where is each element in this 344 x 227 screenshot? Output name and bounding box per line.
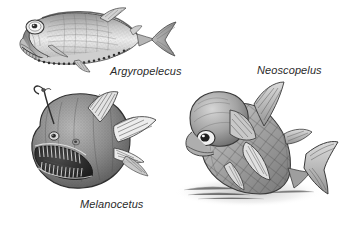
illustration-plate: Argyropelecus Neoscopelus Melanocetus bbox=[0, 0, 344, 227]
figure-neoscopelus bbox=[168, 76, 340, 212]
figure-argyropelecus bbox=[8, 6, 178, 74]
figure-label-melanocetus: Melanocetus bbox=[80, 199, 143, 210]
figure-label-neoscopelus: Neoscopelus bbox=[257, 65, 322, 76]
figure-melanocetus bbox=[14, 82, 164, 200]
figure-label-argyropelecus: Argyropelecus bbox=[110, 66, 182, 77]
